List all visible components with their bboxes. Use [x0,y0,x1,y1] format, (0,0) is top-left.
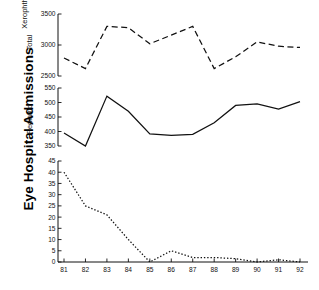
series-line-total [64,26,300,68]
x-tick-label: 90 [253,266,261,273]
series-line-pediatric [64,96,300,146]
y-tick-label-total: 2500 [41,72,56,79]
series-line-xerophthalmia [64,172,300,262]
y-tick-label-xerophthalmia: 0 [52,258,56,265]
x-tick-label: 87 [189,266,197,273]
y-tick-label-xerophthalmia: 35 [48,180,56,187]
y-tick-label-pediatric: 450 [44,113,55,120]
y-tick-label-pediatric: 550 [44,84,55,91]
y-tick-label-xerophthalmia: 5 [52,247,56,254]
x-tick-label: 81 [60,266,68,273]
x-tick-label: 88 [211,266,219,273]
y-tick-label-total: 3500 [41,10,56,17]
x-tick-label: 91 [275,266,283,273]
y-tick-label-xerophthalmia: 40 [48,169,56,176]
x-tick-label: 85 [146,266,154,273]
chart-figure: Eye Hospital Admissions Total Pediatric … [0,0,319,290]
y-tick-label-xerophthalmia: 25 [48,202,56,209]
y-tick-label-pediatric: 500 [44,99,55,106]
chart-plot-area: 2500300035003504004505005500510152025303… [0,0,319,290]
y-tick-label-xerophthalmia: 20 [48,214,56,221]
y-tick-label-pediatric: 350 [44,142,55,149]
x-tick-label: 82 [82,266,90,273]
x-tick-label: 83 [103,266,111,273]
x-tick-label: 92 [296,266,304,273]
y-tick-label-pediatric: 400 [44,128,55,135]
y-tick-label-xerophthalmia: 10 [48,236,56,243]
x-tick-label: 86 [168,266,176,273]
y-tick-label-xerophthalmia: 15 [48,225,56,232]
x-tick-label: 84 [125,266,133,273]
y-tick-label-xerophthalmia: 30 [48,191,56,198]
y-tick-label-total: 3000 [41,41,56,48]
y-tick-label-xerophthalmia: 45 [48,157,56,164]
x-tick-label: 89 [232,266,240,273]
